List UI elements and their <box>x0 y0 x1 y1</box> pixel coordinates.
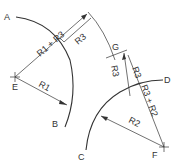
label-c: C <box>78 152 85 162</box>
arrow-head-r1 <box>59 100 67 105</box>
label-r3-upper: R3 <box>73 31 88 46</box>
label-f: F <box>152 150 158 160</box>
label-r1: R1 <box>37 79 52 93</box>
label-r3-mid-right: R3 <box>130 65 143 79</box>
tangent-arc-diagram: A E B G D C F R1 + R3 R3 R1 R3 R3 R3 + R… <box>0 0 182 168</box>
arrow-head-g <box>122 53 126 60</box>
diagram-canvas: A E B G D C F R1 + R3 R3 R1 R3 R3 R3 + R… <box>0 0 182 168</box>
label-r3-mid-left: R3 <box>109 64 121 77</box>
label-r2: R2 <box>127 115 142 129</box>
label-d: D <box>164 75 171 85</box>
arrow-head-top <box>81 14 87 20</box>
arrow-head-r2 <box>101 116 108 121</box>
label-r3-plus-r2: R3 + R2 <box>139 83 160 118</box>
label-a: A <box>4 12 10 22</box>
label-e: E <box>12 82 18 92</box>
label-g: G <box>112 42 119 52</box>
label-b: B <box>52 119 58 129</box>
arc-offset-g <box>88 12 115 60</box>
